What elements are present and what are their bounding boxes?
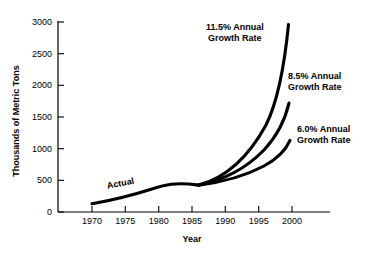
x-tick-label-2000: 2000 bbox=[272, 216, 312, 226]
annotation-rate-6-0: 6.0% Annual Growth Rate bbox=[297, 124, 351, 146]
annotation-rate-11-5-line1: 11.5% Annual bbox=[206, 22, 264, 33]
annotation-rate-6-0-line2: Growth Rate bbox=[297, 135, 351, 146]
y-axis-ticks bbox=[58, 22, 64, 212]
y-axis-title: Thousands of Metric Tons bbox=[11, 51, 21, 191]
series-line-rate-6-0 bbox=[199, 140, 290, 185]
annotation-rate-8-5: 8.5% Annual Growth Rate bbox=[288, 71, 342, 93]
series-line-rate-8-5 bbox=[199, 103, 289, 185]
y-tick-label-3000: 3000 bbox=[8, 17, 52, 27]
chart-container: 0 500 1000 1500 2000 2500 3000 1970 1975… bbox=[0, 0, 370, 259]
annotation-rate-8-5-line1: 8.5% Annual bbox=[288, 71, 342, 82]
y-tick-label-0: 0 bbox=[8, 207, 52, 217]
series-line-rate-11-5 bbox=[199, 25, 289, 186]
x-axis-ticks bbox=[92, 206, 292, 212]
annotation-rate-11-5: 11.5% Annual Growth Rate bbox=[206, 22, 264, 44]
annotation-rate-8-5-line2: Growth Rate bbox=[288, 82, 342, 93]
x-axis-title: Year bbox=[132, 234, 252, 244]
annotation-rate-6-0-line1: 6.0% Annual bbox=[297, 124, 351, 135]
annotation-rate-11-5-line2: Growth Rate bbox=[206, 33, 264, 44]
